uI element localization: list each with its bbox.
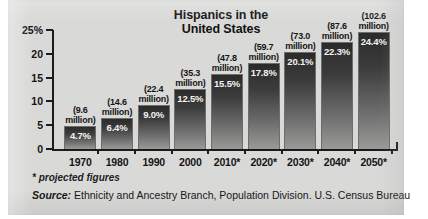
- x-axis-label-2000: 2000: [179, 156, 202, 168]
- source-line: Source: Ethnicity and Ancestry Branch, P…: [32, 189, 410, 201]
- x-tick: [207, 149, 209, 154]
- bar-value-label: 22.3%: [322, 46, 352, 57]
- annotation-line-1: (22.4: [138, 84, 168, 94]
- annotation-line-1: (14.6: [102, 97, 132, 107]
- y-tick-15: [46, 77, 53, 79]
- bar-population-annotation: (22.4million): [138, 84, 168, 104]
- annotation-line-2: million): [322, 31, 352, 41]
- x-tick: [244, 149, 246, 154]
- x-axis-label-2030: 2030*: [287, 156, 313, 168]
- annotation-line-1: (87.6: [322, 21, 352, 31]
- bar-value-label: 12.5%: [175, 93, 205, 104]
- x-tick: [317, 149, 319, 154]
- footnote-projected: * projected figures: [32, 172, 120, 183]
- annotation-line-2: million): [102, 107, 132, 117]
- y-axis-label: 25%: [22, 24, 43, 36]
- bar-1990: 9.0%: [139, 106, 169, 149]
- annotation-line-1: (59.7: [248, 42, 278, 52]
- bar-2030: 20.1%: [285, 53, 315, 149]
- bar-population-annotation: (87.6million): [322, 21, 352, 41]
- y-tick-20: [46, 53, 53, 55]
- x-tick: [281, 149, 283, 154]
- x-tick: [171, 149, 173, 154]
- y-axis-label: 15: [31, 72, 43, 84]
- annotation-line-2: million): [358, 21, 388, 31]
- y-axis-label: 0: [37, 143, 43, 155]
- x-axis-label-2020: 2020*: [250, 156, 276, 168]
- chart-page: Hispanics in the United States 051015202…: [0, 0, 428, 219]
- annotation-line-2: million): [285, 41, 315, 51]
- bar-value-label: 20.1%: [285, 56, 315, 67]
- bar-population-annotation: (9.6million): [65, 105, 95, 125]
- bar-1980: 6.4%: [102, 119, 132, 149]
- source-text: Ethnicity and Ancestry Branch, Populatio…: [71, 189, 410, 201]
- y-tick-0: [46, 148, 53, 150]
- bar-2050: 24.4%: [359, 33, 389, 149]
- y-axis-label: 5: [37, 119, 43, 131]
- bar-2020: 17.8%: [249, 64, 279, 149]
- annotation-line-1: (47.8: [212, 53, 242, 63]
- bar-population-annotation: (102.6million): [358, 11, 388, 31]
- bar-value-label: 24.4%: [359, 36, 389, 47]
- annotation-line-2: million): [138, 94, 168, 104]
- y-tick-5: [46, 124, 53, 126]
- x-axis-line: [52, 149, 398, 151]
- plot-area: 0510152025% 4.7%(9.6million)6.4%(14.6mil…: [52, 30, 398, 150]
- bar-population-annotation: (35.3million): [175, 68, 205, 88]
- bar-value-label: 15.5%: [212, 78, 242, 89]
- bar-2000: 12.5%: [175, 90, 205, 150]
- annotation-line-1: (35.3: [175, 68, 205, 78]
- y-axis-label: 10: [31, 95, 43, 107]
- x-axis-label-2040: 2040*: [324, 156, 350, 168]
- annotation-line-2: million): [175, 78, 205, 88]
- x-tick: [354, 149, 356, 154]
- bar-population-annotation: (14.6million): [102, 97, 132, 117]
- title-line-1: Hispanics in the: [126, 8, 316, 22]
- annotation-line-2: million): [65, 115, 95, 125]
- x-tick: [391, 149, 393, 154]
- y-axis-line: [52, 30, 54, 150]
- x-tick: [134, 149, 136, 154]
- annotation-line-1: (73.0: [285, 31, 315, 41]
- x-axis-end-cap: [396, 142, 398, 151]
- annotation-line-2: million): [212, 63, 242, 73]
- bar-value-label: 9.0%: [139, 109, 169, 120]
- annotation-line-2: million): [248, 52, 278, 62]
- bar-population-annotation: (73.0million): [285, 31, 315, 51]
- x-axis-label-1980: 1980: [106, 156, 129, 168]
- y-tick-10: [46, 100, 53, 102]
- bar-2010: 15.5%: [212, 75, 242, 149]
- annotation-line-1: (9.6: [65, 105, 95, 115]
- x-axis-label-2010: 2010*: [214, 156, 240, 168]
- chart-panel: Hispanics in the United States 051015202…: [8, 0, 404, 215]
- bar-population-annotation: (47.8million): [212, 53, 242, 73]
- bar-2040: 22.3%: [322, 43, 352, 149]
- y-axis-label: 20: [31, 48, 43, 60]
- source-label: Source:: [32, 189, 71, 201]
- bar-value-label: 17.8%: [249, 67, 279, 78]
- x-axis-label-1990: 1990: [142, 156, 165, 168]
- y-tick-25: [46, 29, 53, 31]
- x-axis-label-2050: 2050*: [360, 156, 386, 168]
- x-tick: [97, 149, 99, 154]
- bar-value-label: 6.4%: [102, 122, 132, 133]
- annotation-line-1: (102.6: [358, 11, 388, 21]
- bar-value-label: 4.7%: [65, 130, 95, 141]
- bar-1970: 4.7%: [65, 127, 95, 149]
- x-axis-label-1970: 1970: [69, 156, 92, 168]
- bar-population-annotation: (59.7million): [248, 42, 278, 62]
